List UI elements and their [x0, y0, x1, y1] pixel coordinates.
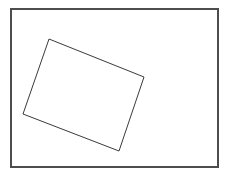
figure-canvas	[0, 0, 229, 178]
canvas-background	[0, 0, 229, 178]
diagram-svg	[0, 0, 229, 178]
